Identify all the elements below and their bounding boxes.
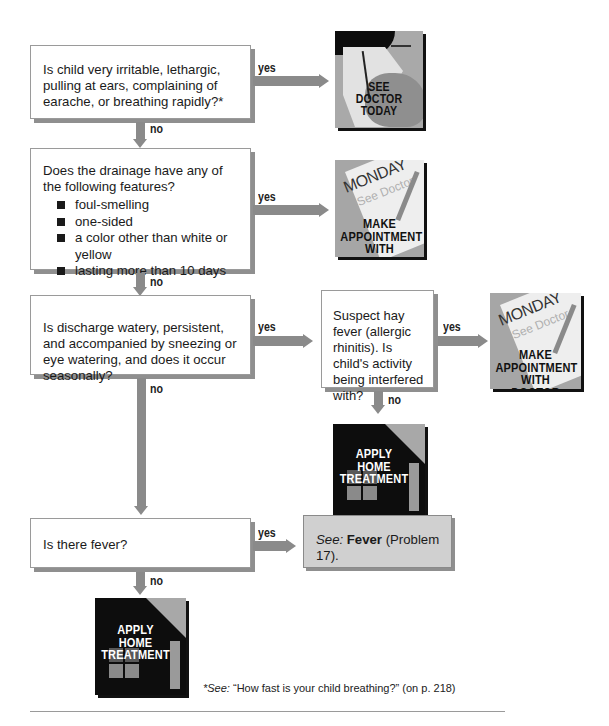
feature-list: foul-smelling one-sided a color other th… [43, 197, 238, 280]
see-doctor-today-tile: SEE DOCTOR TODAY [335, 31, 423, 128]
tile-caption: MAKE APPOINTMENT WITH DOCTOR [495, 349, 575, 389]
yes-arrow [253, 205, 319, 215]
tile-caption: APPLY HOME TREATMENT [100, 624, 171, 662]
no-label: no [150, 275, 163, 289]
caption-line: APPLY [100, 624, 171, 637]
window-icon [363, 486, 377, 500]
no-label: no [388, 393, 401, 407]
question-box-fever: Is there fever? [30, 518, 251, 568]
make-appointment-tile: MONDAY See Doctor MAKE APPOINTMENT WITH … [490, 293, 581, 389]
question-box-drainage: Does the drainage have any of the follow… [30, 148, 251, 270]
question-text: Is there fever? [43, 537, 127, 552]
question-text: Is discharge watery, persistent, and acc… [43, 320, 237, 383]
caption-line: MAKE [340, 218, 418, 231]
tile-caption: MAKE APPOINTMENT WITH DOCTOR [340, 218, 418, 257]
question-text: Does the drainage have any of the follow… [43, 163, 238, 195]
window-icon [347, 486, 361, 500]
caption-line: APPLY [338, 448, 410, 461]
bottom-rule [30, 711, 505, 712]
yes-label: yes [258, 190, 276, 204]
caption-line: TREATMENT [338, 473, 410, 486]
caption-line: WITH DOCTOR [340, 243, 418, 257]
caption-line: WITH DOCTOR [495, 374, 575, 389]
feature-item: one-sided [57, 214, 238, 231]
no-label: no [150, 574, 163, 588]
no-arrow [137, 378, 146, 506]
door-icon [409, 463, 419, 511]
feature-item: lasting more than 10 days [57, 263, 238, 280]
no-arrow [374, 391, 383, 405]
make-appointment-tile: MONDAY See Doctor MAKE APPOINTMENT WITH … [335, 160, 424, 257]
home-treatment-tile: APPLY HOME TREATMENT [95, 598, 186, 695]
door-icon [170, 641, 180, 689]
fever-reference-box: See: Fever (Problem 17). [303, 515, 452, 568]
tile-caption: SEE DOCTOR TODAY [340, 81, 417, 117]
no-arrow [136, 572, 145, 586]
yes-label: yes [258, 526, 276, 540]
home-treatment-tile: APPLY HOME TREATMENT [333, 424, 425, 517]
fever-link[interactable]: Fever [347, 532, 382, 547]
footnote-see: *See: [203, 682, 230, 694]
footnote: *See: “How fast is your child breathing?… [203, 682, 456, 694]
yes-arrow [253, 541, 286, 551]
yes-label: yes [258, 320, 276, 334]
window-icon [109, 664, 123, 678]
see-text: See: [316, 532, 343, 547]
yes-arrow [438, 336, 478, 346]
caption-line: TREATMENT [100, 649, 171, 662]
no-arrow [136, 122, 145, 139]
question-box-irritable: Is child very irritable, lethargic, pull… [30, 45, 251, 119]
yes-label: yes [443, 320, 461, 334]
feature-item: a color other than white or yellow [57, 230, 238, 263]
no-label: no [150, 122, 163, 136]
question-text: Is child very irritable, lethargic, pull… [43, 62, 223, 109]
glasses-icon [391, 45, 411, 47]
window-icon [125, 664, 139, 678]
feature-item: foul-smelling [57, 197, 238, 214]
tile-caption: APPLY HOME TREATMENT [338, 448, 410, 486]
yes-arrow [253, 76, 319, 86]
question-box-watery-discharge: Is discharge watery, persistent, and acc… [30, 295, 251, 375]
yes-arrow [253, 336, 303, 346]
question-box-hay-fever: Suspect hay fever (allergic rhinitis). I… [321, 290, 434, 388]
no-label: no [150, 382, 163, 396]
yes-label: yes [258, 61, 276, 75]
no-arrow [136, 273, 145, 287]
caption-line: MAKE [495, 349, 575, 362]
caption-line: TODAY [340, 105, 417, 117]
footnote-text: “How fast is your child breathing?” (on … [230, 682, 456, 694]
question-text: Suspect hay fever (allergic rhinitis). I… [333, 308, 423, 403]
